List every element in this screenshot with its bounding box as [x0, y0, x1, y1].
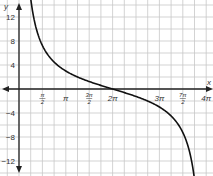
y-tick-label: −12: [1, 157, 15, 166]
tick-labels: yx1284−4−8−12π2π3π22π3π7π24π: [1, 2, 212, 166]
x-tick-label-denominator: 2: [180, 99, 185, 105]
y-tick-label: −4: [6, 109, 16, 118]
y-axis-down-arrow-icon: [16, 166, 22, 173]
x-tick-label: 4π: [201, 94, 211, 103]
y-tick-label: −8: [6, 133, 16, 142]
x-tick-label: π: [63, 94, 69, 103]
y-axis-up-arrow-icon: [16, 3, 22, 10]
x-axis-label: x: [206, 78, 212, 87]
y-tick-label: 4: [11, 61, 16, 70]
x-tick-label: 2π: [107, 94, 118, 103]
cotangent-graph: yx1284−4−8−12π2π3π22π3π7π24π: [0, 0, 213, 176]
y-axis-label: y: [3, 2, 9, 11]
x-tick-label-denominator: 2: [40, 99, 45, 105]
x-tick-label-numerator: 3π: [86, 92, 94, 98]
x-tick-label-denominator: 2: [87, 99, 92, 105]
x-tick-label: 3π: [154, 94, 164, 103]
grid-lines: [0, 0, 213, 176]
y-tick-label: 12: [6, 13, 15, 22]
y-tick-label: 8: [11, 37, 16, 46]
x-axis-left-arrow-icon: [2, 86, 9, 92]
x-tick-label-numerator: 7π: [179, 92, 187, 98]
x-tick-label-numerator: π: [40, 92, 45, 98]
